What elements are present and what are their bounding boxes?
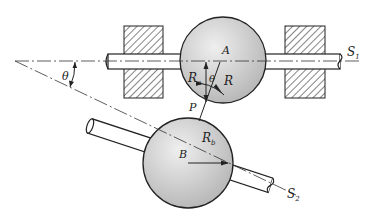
theta-arrow-top: [73, 62, 78, 68]
label-p: P: [188, 101, 197, 114]
diagram-canvas: θ A θ Ra R P Rb B S1 S2: [0, 0, 373, 210]
sphere-a: [180, 17, 266, 103]
label-theta-left: θ: [62, 70, 69, 83]
label-b: B: [178, 148, 187, 161]
theta-arrow-bottom: [69, 81, 74, 88]
label-s2: S2: [287, 187, 300, 203]
label-r: R: [223, 74, 233, 88]
label-theta-center: θ: [209, 73, 215, 84]
label-a: A: [221, 44, 230, 57]
label-s1: S1: [347, 45, 360, 61]
